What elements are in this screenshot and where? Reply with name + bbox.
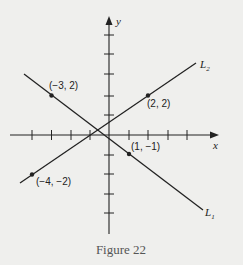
x-axis-arrow-icon [210,132,219,139]
x-axis-label: x [212,139,218,151]
point-neg4-neg2 [30,172,34,176]
coordinate-plane-figure: x y (−3, 2) (1, −1) L1 (−4, −2) ( [0,0,243,265]
point-1-neg1 [127,152,131,156]
line-l2-label: L2 [199,58,210,73]
line-l1-label: L1 [204,206,215,221]
line-l1: (−3, 2) (1, −1) L1 [24,74,215,221]
point-neg3-2 [49,93,53,97]
point-label-neg3-2: (−3, 2) [49,80,78,91]
x-axis: x [10,130,219,151]
figure-caption: Figure 22 [96,242,146,257]
y-axis-label: y [115,15,121,27]
y-axis-arrow-icon [106,16,113,25]
point-label-2-2: (2, 2) [147,98,170,109]
point-label-neg4-neg2: (−4, −2) [36,176,71,187]
point-label-1-neg1: (1, −1) [131,141,160,152]
line-l2: (−4, −2) (2, 2) L2 [20,58,210,187]
